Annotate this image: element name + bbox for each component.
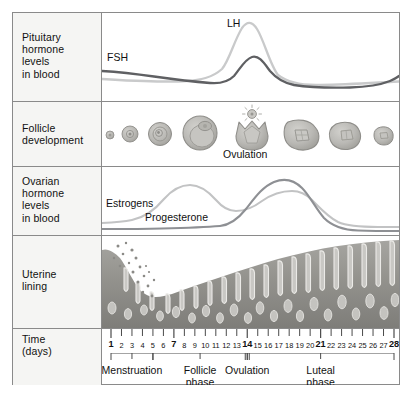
day-number: 15 (254, 341, 262, 350)
day-number: 22 (327, 341, 335, 350)
day-number: 1 (108, 339, 113, 349)
phase-label: Lutealphase (306, 365, 335, 385)
day-number: 14 (242, 339, 252, 349)
phase-label-line: phase (306, 377, 335, 386)
day-number: 20 (306, 341, 314, 350)
follicle-stage-3 (149, 123, 172, 146)
label-line: Ovarian (22, 175, 64, 187)
label-line: Uterine (22, 268, 57, 280)
day-number: 5 (151, 341, 155, 350)
phase-bracket (111, 353, 153, 360)
label-line: levels (22, 199, 64, 211)
phase-label-line: Ovulation (225, 365, 269, 377)
row-pituitary: Pituitary hormone levels in blood FSH LH (13, 13, 399, 101)
phase-label: Menstruation (102, 365, 162, 377)
day-number: 19 (296, 341, 304, 350)
phase-bracket (247, 353, 394, 360)
day-number: 13 (233, 341, 241, 350)
released-ovum (243, 105, 262, 120)
row-label-uterine: Uterine lining (22, 268, 57, 292)
day-number: 18 (285, 341, 293, 350)
day-number: 4 (140, 341, 144, 350)
label-line: development (22, 134, 83, 146)
phase-label-line: phase (184, 377, 217, 386)
day-number: 23 (337, 341, 345, 350)
follicle-stage-1 (106, 131, 114, 139)
label-line: in blood (22, 68, 64, 80)
row-label-ovarian: Ovarian hormone levels in blood (22, 175, 64, 224)
estrogens-label: Estrogens (106, 197, 153, 209)
label-line: (days) (22, 345, 52, 357)
label-line: Time (22, 333, 52, 345)
lh-label: LH (227, 17, 240, 29)
follicle-development-illustration: Ovulation (102, 102, 399, 166)
ovarian-hormone-chart: Estrogens Progesterone (102, 167, 399, 235)
follicle-stage-ovulation (236, 105, 268, 150)
follicle-stage-regressing (329, 122, 360, 149)
phase-label: Folliclephase (184, 365, 217, 385)
day-number: 10 (201, 341, 209, 350)
pituitary-hormone-chart: FSH LH (102, 13, 399, 101)
label-line: Follicle (22, 122, 83, 134)
row-label-pituitary: Pituitary hormone levels in blood (22, 31, 64, 80)
time-axis: 1234567891011121314151617181920212223242… (102, 329, 399, 385)
day-number: 7 (171, 339, 176, 349)
day-number: 11 (212, 341, 220, 350)
phase-label-line: Luteal (306, 365, 335, 377)
day-number: 25 (358, 341, 366, 350)
phase-label-line: Menstruation (102, 365, 162, 377)
progesterone-label: Progesterone (145, 211, 208, 223)
fsh-label: FSH (107, 51, 128, 63)
day-number: 6 (161, 341, 165, 350)
label-line: hormone (22, 43, 64, 55)
day-number: 12 (222, 341, 230, 350)
day-number: 16 (264, 341, 272, 350)
day-number: 8 (182, 341, 186, 350)
row-label-follicle: Follicle development (22, 122, 83, 146)
day-number: 27 (379, 341, 387, 350)
label-line: in blood (22, 212, 64, 224)
row-time: Time (days) 1234567891011121314151617181… (13, 329, 399, 385)
day-number: 2 (119, 341, 123, 350)
row-follicle: Follicle development (13, 102, 399, 166)
day-number: 17 (275, 341, 283, 350)
day-number: 24 (348, 341, 356, 350)
day-number: 21 (316, 339, 326, 349)
day-number: 3 (130, 341, 134, 350)
phase-bracket (153, 353, 247, 360)
day-number: 26 (369, 341, 377, 350)
row-uterine: Uterine lining (13, 236, 399, 328)
phase-label: Ovulation (225, 365, 269, 377)
label-line: Pituitary (22, 31, 64, 43)
day-number: 9 (193, 341, 197, 350)
label-line: levels (22, 55, 64, 67)
follicle-stage-corpus-luteum (284, 120, 319, 150)
row-label-time: Time (days) (22, 333, 52, 357)
follicle-stage-corpus-albicans (374, 127, 393, 145)
label-line: hormone (22, 187, 64, 199)
phase-label-line: Follicle (184, 365, 217, 377)
day-number: 28 (389, 339, 399, 349)
uterine-lining-illustration (102, 236, 399, 328)
label-line: lining (22, 280, 57, 292)
ovulation-label: Ovulation (223, 148, 267, 160)
follicle-stage-2 (122, 126, 138, 142)
menstrual-cycle-diagram: Pituitary hormone levels in blood FSH LH… (12, 12, 400, 385)
row-ovarian: Ovarian hormone levels in blood Estrogen… (13, 167, 399, 235)
follicle-stage-4 (183, 116, 217, 150)
